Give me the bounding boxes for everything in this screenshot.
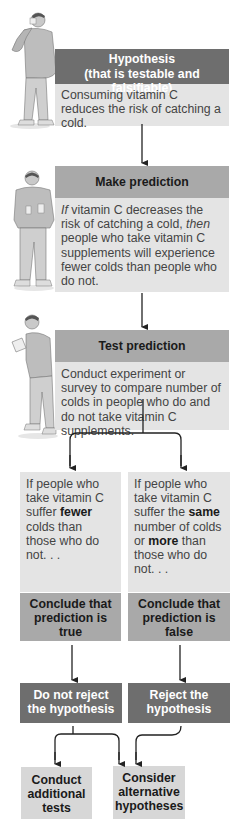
flow-arrows — [0, 0, 237, 828]
